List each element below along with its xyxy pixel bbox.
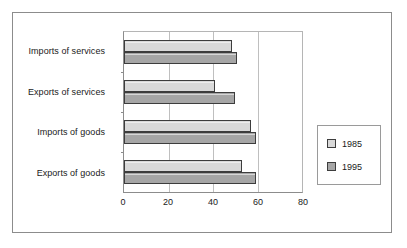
clipped-caption [14, 240, 174, 248]
bar-group-imports-of-services [124, 32, 302, 72]
bar-1995-exports-of-goods [124, 172, 256, 184]
legend-label-1995: 1995 [342, 162, 362, 172]
value-tick-label-40: 40 [208, 197, 218, 207]
category-label-imports-of-services: Imports of services [13, 31, 112, 72]
bar-1995-imports-of-goods [124, 132, 256, 144]
category-label-exports-of-goods: Exports of goods [13, 153, 112, 194]
bar-1985-exports-of-services [124, 80, 215, 92]
bar-1995-imports-of-services [124, 52, 237, 64]
bar-group-exports-of-services [124, 72, 302, 112]
legend-label-1985: 1985 [342, 139, 362, 149]
value-tick-label-80: 80 [298, 197, 308, 207]
legend-swatch-icon-1995 [327, 162, 336, 171]
legend-item-1985: 1985 [327, 139, 380, 149]
bar-1985-imports-of-services [124, 40, 232, 52]
value-tick-label-60: 60 [253, 197, 263, 207]
value-tick-label-0: 0 [120, 197, 125, 207]
category-label-exports-of-services: Exports of services [13, 72, 112, 113]
value-tick-label-20: 20 [163, 197, 173, 207]
legend-item-1995: 1995 [327, 162, 380, 172]
plot-area [123, 31, 303, 193]
chart-legend: 1985 1995 [317, 125, 381, 185]
bar-group-imports-of-goods [124, 112, 302, 152]
bar-1985-exports-of-goods [124, 160, 242, 172]
value-axis: 020406080 [123, 195, 303, 209]
bar-groups [124, 32, 302, 192]
category-label-imports-of-goods: Imports of goods [13, 112, 112, 153]
bar-group-exports-of-goods [124, 152, 302, 192]
bar-1995-exports-of-services [124, 92, 235, 104]
legend-swatch-icon-1985 [327, 139, 336, 148]
chart-frame: Imports of services Exports of services … [12, 12, 392, 233]
bar-1985-imports-of-goods [124, 120, 251, 132]
category-axis: Imports of services Exports of services … [13, 31, 112, 193]
